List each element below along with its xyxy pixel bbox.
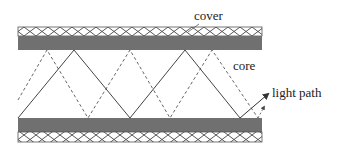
solid-light-path [18, 50, 240, 118]
top-cover [18, 27, 262, 36]
light-path-arrow-icon [240, 94, 268, 118]
bottom-cladding-band [18, 118, 262, 132]
cover-label: cover [194, 8, 224, 23]
dashed-arrow-icon [258, 107, 264, 118]
light-path-label: light path [272, 85, 322, 100]
optical-fiber-diagram: cover core light path [0, 0, 342, 152]
bottom-cover [18, 132, 262, 142]
top-cladding-band [18, 36, 262, 50]
core-label: core [233, 58, 256, 73]
